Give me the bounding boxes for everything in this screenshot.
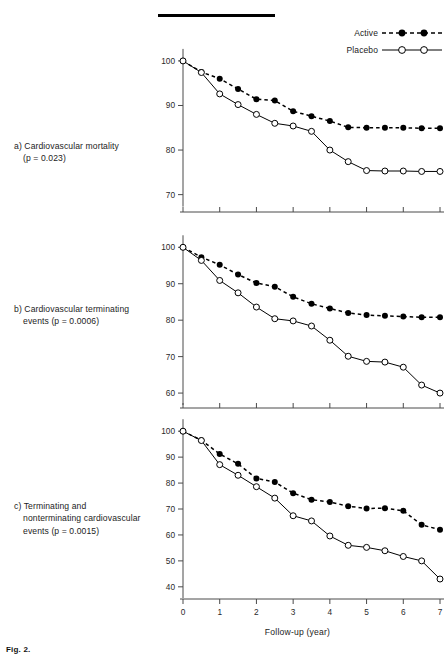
data-point	[217, 262, 223, 268]
y-tick-label: 100	[161, 56, 175, 66]
data-point	[419, 168, 425, 174]
data-point	[272, 284, 278, 290]
data-point	[382, 505, 388, 511]
data-point	[382, 125, 388, 131]
data-point	[235, 272, 241, 278]
x-axis-title: Follow-up (year)	[150, 627, 445, 637]
legend-swatch-active	[382, 26, 442, 40]
y-tick-label: 80	[166, 315, 176, 325]
data-point	[364, 358, 370, 364]
data-point	[327, 306, 333, 312]
data-point	[345, 159, 351, 165]
chart-panel-c: 405060708090100	[150, 418, 445, 598]
x-tick-label: 3	[291, 607, 296, 617]
data-point	[309, 323, 315, 329]
data-point	[419, 314, 425, 320]
panel-caption-c-line3: events (p = 0.0015)	[14, 525, 164, 537]
data-point	[437, 576, 443, 582]
data-point	[345, 124, 351, 130]
data-point	[253, 484, 259, 490]
data-point	[253, 96, 259, 102]
data-point	[290, 294, 296, 300]
data-point	[345, 542, 351, 548]
y-tick-label: 100	[161, 426, 175, 436]
y-tick-label: 40	[166, 582, 176, 592]
data-point	[217, 76, 223, 82]
data-point	[400, 125, 406, 131]
data-point	[437, 168, 443, 174]
data-point	[272, 120, 278, 126]
panel-caption-a: a) Cardiovascular mortality (p = 0.023)	[14, 140, 164, 165]
chart-panel-a: 708090100	[150, 44, 445, 214]
y-axis-b: 60708090100	[161, 235, 183, 405]
panel-caption-b-line1: b) Cardiovascular terminating	[14, 303, 164, 315]
y-axis-a: 708090100	[161, 49, 183, 207]
panel-caption-a-line1: a) Cardiovascular mortality	[14, 140, 164, 152]
data-point	[364, 168, 370, 174]
panel-caption-a-line2: (p = 0.023)	[14, 152, 164, 164]
data-point	[198, 257, 204, 263]
panel-bottom-axis	[180, 207, 444, 212]
data-point	[437, 390, 443, 396]
data-point	[364, 312, 370, 318]
data-point	[309, 113, 315, 119]
y-tick-label: 70	[166, 352, 176, 362]
data-point	[217, 451, 223, 457]
data-point	[364, 544, 370, 550]
data-point	[382, 548, 388, 554]
y-tick-label: 60	[166, 388, 176, 398]
figure-number-label: Fig. 2.	[6, 645, 31, 654]
shared-x-axis: 01234567	[150, 596, 445, 622]
data-point	[290, 513, 296, 519]
data-point	[272, 98, 278, 104]
data-point	[327, 118, 333, 124]
y-tick-label: 60	[166, 530, 176, 540]
data-point	[400, 314, 406, 320]
data-point	[253, 304, 259, 310]
data-point	[290, 318, 296, 324]
panel-bottom-axis	[180, 403, 444, 408]
data-point	[345, 310, 351, 316]
series-active-c	[180, 428, 443, 533]
data-point	[235, 86, 241, 92]
data-point	[364, 125, 370, 131]
legend-entry-active: Active	[330, 24, 442, 41]
data-point	[217, 91, 223, 97]
data-point	[290, 490, 296, 496]
data-point	[253, 280, 259, 286]
data-point	[419, 125, 425, 131]
data-point	[290, 123, 296, 129]
x-tick-label: 5	[364, 607, 369, 617]
x-tick-label: 1	[217, 607, 222, 617]
y-tick-label: 90	[166, 100, 176, 110]
data-point	[437, 527, 443, 533]
data-point	[290, 108, 296, 114]
data-point	[400, 508, 406, 514]
data-point	[309, 518, 315, 524]
x-tick-label: 4	[328, 607, 333, 617]
data-point	[345, 503, 351, 509]
data-point	[198, 438, 204, 444]
data-point	[180, 244, 186, 250]
y-axis-c: 405060708090100	[161, 419, 183, 598]
data-point	[309, 497, 315, 503]
data-point	[400, 168, 406, 174]
data-point	[309, 301, 315, 307]
data-point	[272, 316, 278, 322]
y-tick-label: 90	[166, 279, 176, 289]
data-point	[419, 382, 425, 388]
data-point	[437, 314, 443, 320]
data-point	[253, 475, 259, 481]
panel-caption-b: b) Cardiovascular terminating events (p …	[14, 303, 164, 328]
data-point	[437, 125, 443, 131]
x-tick-label: 6	[401, 607, 406, 617]
data-point	[345, 353, 351, 359]
data-point	[235, 461, 241, 467]
y-tick-label: 70	[166, 504, 176, 514]
data-point	[364, 505, 370, 511]
x-tick-label: 7	[438, 607, 443, 617]
x-tick-label: 0	[181, 607, 186, 617]
y-tick-label: 90	[166, 452, 176, 462]
data-point	[382, 359, 388, 365]
